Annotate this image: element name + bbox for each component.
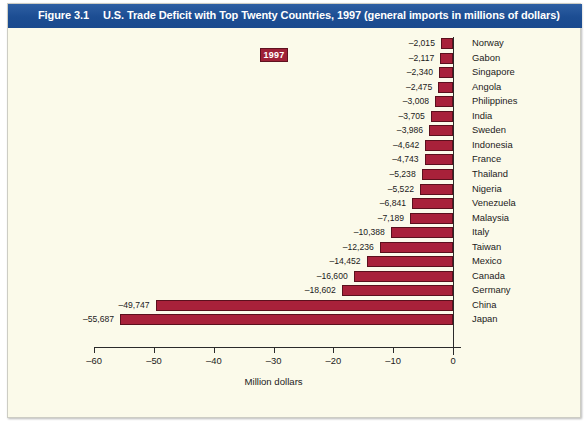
bar-row: –4,743France — [8, 153, 582, 168]
category-label: Canada — [472, 270, 505, 282]
x-axis-title: Million dollars — [94, 376, 453, 387]
x-axis-line — [94, 347, 461, 348]
bar — [367, 256, 453, 267]
bar — [412, 198, 453, 209]
x-axis-tick — [94, 347, 95, 353]
bar-row: –16,600Canada — [8, 270, 582, 285]
x-axis-tick-label: 0 — [433, 355, 473, 366]
category-label: Japan — [472, 313, 498, 325]
bar-value-label: –2,117 — [366, 52, 434, 64]
category-label: Singapore — [472, 66, 515, 78]
category-label: Indonesia — [472, 139, 513, 151]
figure-container: Figure 3.1U.S. Trade Deficit with Top Tw… — [7, 3, 581, 418]
x-axis-tick — [393, 347, 394, 353]
bar-value-label: –2,015 — [367, 37, 435, 49]
bar-value-label: –16,600 — [280, 270, 348, 282]
bar-value-label: –3,986 — [355, 124, 423, 136]
zero-axis-rule — [453, 37, 454, 355]
bar-row: –4,642Indonesia — [8, 139, 582, 154]
x-axis-tick-label: –60 — [74, 355, 114, 366]
bar — [391, 227, 453, 238]
category-label: Norway — [472, 37, 504, 49]
bar — [438, 82, 453, 93]
x-axis-tick — [274, 347, 275, 353]
category-label: France — [472, 153, 501, 165]
bar-value-label: –55,687 — [46, 313, 114, 325]
bar-row: –2,475Angola — [8, 81, 582, 96]
bar-value-label: –2,340 — [365, 66, 433, 78]
bar-value-label: –4,642 — [351, 139, 419, 151]
figure-number: Figure 3.1 — [38, 9, 89, 21]
x-axis-tick-label: –50 — [134, 355, 174, 366]
bar-row: –18,602Germany — [8, 284, 582, 299]
bar — [354, 271, 453, 282]
bar-value-label: –3,008 — [361, 95, 429, 107]
bar-row: –5,238Thailand — [8, 168, 582, 183]
bar-row: –3,705India — [8, 110, 582, 125]
category-label: Italy — [472, 226, 489, 238]
bar-value-label: –10,388 — [317, 226, 385, 238]
figure-title: U.S. Trade Deficit with Top Twenty Count… — [103, 9, 560, 21]
x-axis-tick — [154, 347, 155, 353]
x-axis-tick-label: –10 — [373, 355, 413, 366]
category-label: China — [472, 299, 497, 311]
category-label: Thailand — [472, 168, 508, 180]
bar — [425, 140, 453, 151]
bar — [439, 67, 453, 78]
bar-row: –5,522Nigeria — [8, 183, 582, 198]
bar-row: –6,841Venezuela — [8, 197, 582, 212]
bar-row: –3,008Philippines — [8, 95, 582, 110]
x-axis-tick-label: –40 — [194, 355, 234, 366]
bar — [425, 154, 453, 165]
category-label: Taiwan — [472, 241, 501, 253]
category-label: Germany — [472, 284, 511, 296]
bar — [440, 53, 453, 64]
bar-row: –12,236Taiwan — [8, 241, 582, 256]
x-axis-tick — [333, 347, 334, 353]
bar — [380, 242, 453, 253]
bar-value-label: –2,475 — [364, 81, 432, 93]
bar — [435, 96, 453, 107]
bar-value-label: –3,705 — [357, 110, 425, 122]
bar-row: –2,015Norway — [8, 37, 582, 52]
category-label: Angola — [472, 81, 501, 93]
bar — [420, 184, 453, 195]
category-label: Sweden — [472, 124, 506, 136]
bar — [120, 314, 453, 325]
x-axis-tick-label: –30 — [254, 355, 294, 366]
chart-plot-area: 1997 –2,015Norway–2,117Gabon–2,340Singap… — [8, 28, 582, 419]
bar-row: –2,117Gabon — [8, 52, 582, 67]
figure-header-text: Figure 3.1U.S. Trade Deficit with Top Tw… — [38, 9, 560, 21]
bar-row: –55,687Japan — [8, 313, 582, 328]
category-label: India — [472, 110, 492, 122]
bar-value-label: –12,236 — [306, 241, 374, 253]
bar-value-label: –5,522 — [346, 183, 414, 195]
category-label: Philippines — [472, 95, 517, 107]
bar-row: –10,388Italy — [8, 226, 582, 241]
x-axis-tick — [453, 347, 454, 353]
bar-value-label: –18,602 — [268, 284, 336, 296]
bar — [342, 285, 453, 296]
bar-value-label: –6,841 — [338, 197, 406, 209]
bar-value-label: –14,452 — [293, 255, 361, 267]
category-label: Gabon — [472, 52, 500, 64]
x-axis-tick-label: –20 — [313, 355, 353, 366]
bar-rows: –2,015Norway–2,117Gabon–2,340Singapore–2… — [8, 28, 582, 348]
bar-value-label: –5,238 — [348, 168, 416, 180]
bar-row: –3,986Sweden — [8, 124, 582, 139]
bar — [156, 300, 453, 311]
bar-row: –2,340Singapore — [8, 66, 582, 81]
category-label: Nigeria — [472, 183, 502, 195]
bar — [429, 125, 453, 136]
category-label: Venezuela — [472, 197, 516, 209]
x-axis-tick — [214, 347, 215, 353]
bar-row: –49,747China — [8, 299, 582, 314]
bar — [422, 169, 453, 180]
figure-header-banner: Figure 3.1U.S. Trade Deficit with Top Tw… — [8, 4, 582, 28]
bar-value-label: –7,189 — [336, 212, 404, 224]
bar-row: –14,452Mexico — [8, 255, 582, 270]
bar — [431, 111, 453, 122]
category-label: Malaysia — [472, 212, 509, 224]
category-label: Mexico — [472, 255, 502, 267]
bar — [410, 213, 453, 224]
